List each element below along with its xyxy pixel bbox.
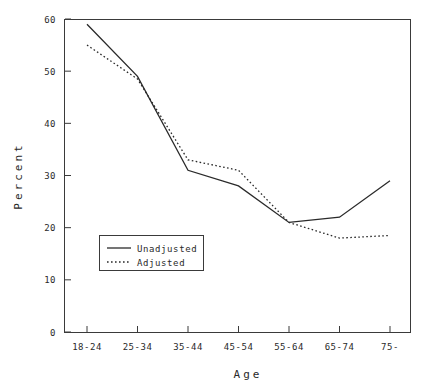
- y-tick-label: 20: [44, 223, 56, 233]
- chart-figure: 0102030405060 18-2425-3435-4445-5455-646…: [0, 0, 432, 386]
- y-axis-tick-labels: 0102030405060: [44, 15, 56, 338]
- x-tick-label: 35-44: [173, 342, 203, 352]
- x-axis-title: Age: [234, 368, 263, 381]
- line-chart-svg: 0102030405060 18-2425-3435-4445-5455-646…: [0, 0, 432, 386]
- y-axis-title: Percent: [12, 142, 25, 209]
- y-tick-label: 0: [50, 328, 56, 338]
- x-tick-label: 65-74: [325, 342, 355, 352]
- series-line-adjusted: [87, 45, 390, 238]
- faint-header-text: [0, 0, 432, 8]
- series-line-unadjusted: [87, 24, 390, 222]
- plot-area-border: [65, 20, 411, 333]
- data-series-group: [87, 24, 390, 238]
- y-tick-label: 50: [44, 67, 56, 77]
- y-axis-ticks: [65, 19, 71, 332]
- y-tick-label: 10: [44, 275, 56, 285]
- x-tick-label: 25-34: [123, 342, 153, 352]
- x-tick-label: 18-24: [72, 342, 102, 352]
- x-tick-label: 75-: [381, 342, 399, 352]
- y-tick-label: 40: [44, 119, 56, 129]
- x-axis-tick-labels: 18-2425-3435-4445-5455-6465-7475-: [72, 342, 399, 352]
- y-tick-label: 60: [44, 15, 56, 25]
- chart-legend: UnadjustedAdjusted: [100, 236, 204, 271]
- x-tick-label: 45-54: [224, 342, 254, 352]
- y-tick-label: 30: [44, 171, 56, 181]
- x-axis-ticks: [87, 326, 390, 332]
- legend-label-adjusted: Adjusted: [137, 258, 185, 268]
- x-tick-label: 55-64: [274, 342, 304, 352]
- legend-label-unadjusted: Unadjusted: [137, 244, 197, 254]
